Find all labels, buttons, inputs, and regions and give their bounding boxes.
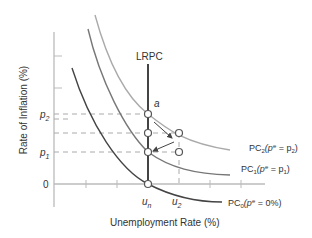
equilibrium-points	[145, 111, 183, 188]
point-a	[145, 111, 152, 118]
pc2-label: PC2(pe = p2)	[249, 143, 298, 154]
dashed-guides	[54, 114, 179, 184]
lrpc-label: LRPC	[136, 51, 163, 62]
zero-label: 0	[43, 179, 49, 190]
pc1-label: PC1(pe = p1)	[241, 164, 290, 175]
un-label: un	[142, 196, 152, 209]
y-ticks	[54, 56, 62, 88]
phillips-curve-diagram: LRPC a p2 p1 0 un u2 Unemployment Rate (…	[0, 0, 312, 238]
u2-label: u2	[172, 196, 182, 209]
p2-label: p2	[39, 109, 50, 122]
pc0-label: PC0(pe = 0%)	[228, 198, 281, 209]
x-axis-title: Unemployment Rate (%)	[110, 217, 219, 228]
arrow-to-un	[153, 142, 174, 151]
point-a-label: a	[154, 98, 160, 109]
y-axis-title: Rate of Inflation (%)	[18, 66, 29, 154]
p1-label: p1	[39, 147, 50, 160]
